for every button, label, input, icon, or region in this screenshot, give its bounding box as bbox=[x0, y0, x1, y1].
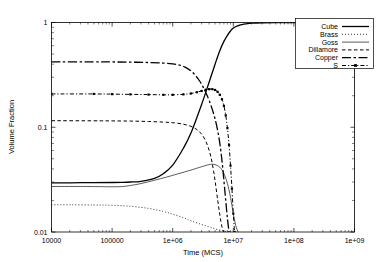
series-marker bbox=[216, 91, 218, 93]
legend-label-goss: Goss bbox=[322, 39, 339, 46]
series-marker bbox=[162, 94, 164, 96]
x-tick-label: 1e+09 bbox=[345, 237, 365, 244]
series-marker bbox=[196, 91, 198, 93]
series-marker bbox=[182, 93, 184, 95]
y-tick-label: 0.01 bbox=[34, 229, 48, 236]
legend-label-s: S bbox=[333, 62, 338, 69]
x-tick-label: 10000 bbox=[42, 237, 62, 244]
x-tick-label: 100000 bbox=[100, 237, 123, 244]
volume-fraction-log-log-plot: 100001000001e+061e+071e+081e+09 10.10.01… bbox=[0, 0, 383, 262]
series-marker bbox=[93, 93, 95, 95]
legend-sample-marker bbox=[354, 64, 357, 67]
x-tick-label: 1e+08 bbox=[284, 237, 304, 244]
series-marker bbox=[231, 187, 233, 189]
series-marker bbox=[223, 105, 225, 107]
series-marker bbox=[232, 212, 234, 214]
series-marker bbox=[129, 93, 131, 95]
series-marker bbox=[221, 98, 223, 100]
legend-label-brass: Brass bbox=[320, 31, 338, 38]
series-marker bbox=[147, 93, 149, 95]
series-marker bbox=[190, 92, 192, 94]
chart-container: 100001000001e+061e+071e+081e+09 10.10.01… bbox=[0, 0, 383, 262]
series-marker bbox=[111, 93, 113, 95]
series-marker bbox=[205, 89, 207, 91]
series-marker bbox=[219, 94, 221, 96]
series-marker bbox=[228, 144, 230, 146]
x-axis-title: Time (MCS) bbox=[183, 248, 224, 257]
series-marker bbox=[211, 88, 213, 90]
series-marker bbox=[225, 114, 227, 116]
legend: CubeBrassGossDillamoreCopperS bbox=[296, 19, 374, 69]
series-marker bbox=[226, 127, 228, 129]
y-tick-label: 0.1 bbox=[38, 124, 48, 131]
legend-label-copper: Copper bbox=[315, 54, 339, 62]
y-axis-title: Volume Fraction bbox=[7, 100, 16, 154]
y-tick-label: 1 bbox=[44, 19, 48, 26]
legend-label-cube: Cube bbox=[321, 23, 338, 30]
series-marker bbox=[201, 90, 203, 92]
series-marker bbox=[172, 94, 174, 96]
series-marker bbox=[208, 88, 210, 90]
legend-label-dillamore: Dillamore bbox=[308, 46, 338, 53]
x-tick-label: 1e+06 bbox=[163, 237, 183, 244]
series-marker bbox=[214, 89, 216, 91]
x-tick-label: 1e+07 bbox=[223, 237, 243, 244]
series-marker bbox=[229, 165, 231, 167]
